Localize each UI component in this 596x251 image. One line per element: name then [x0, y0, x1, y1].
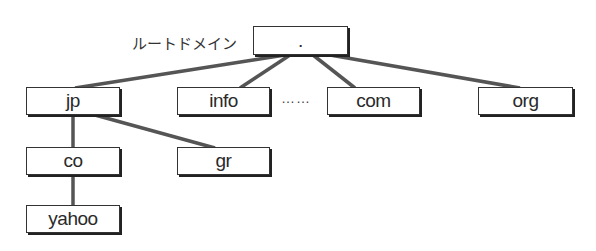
node-info: info	[177, 87, 270, 115]
ellipsis: ……	[281, 90, 311, 106]
edge-root-org	[330, 55, 520, 88]
node-root: .	[253, 26, 348, 55]
node-org: org	[478, 87, 573, 115]
node-gr: gr	[177, 147, 270, 175]
node-co: co	[26, 147, 120, 175]
edge-root-jp	[75, 55, 285, 88]
node-yahoo: yahoo	[26, 205, 120, 233]
node-com: com	[327, 87, 420, 115]
node-jp: jp	[26, 87, 120, 115]
root-domain-label: ルートドメイン	[132, 32, 237, 53]
edge-jp-gr	[95, 115, 215, 148]
